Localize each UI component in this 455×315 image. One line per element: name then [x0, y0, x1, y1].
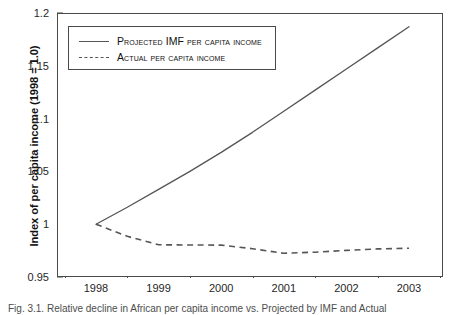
- y-tick-label: 1.1: [9, 113, 49, 125]
- x-tick-label: 2000: [186, 282, 256, 294]
- x-tick-label: 1999: [124, 282, 194, 294]
- y-tick-label: 1.05: [9, 165, 49, 177]
- y-tick-label: 0.95: [9, 271, 49, 283]
- legend-label-projected: Projected IMF per capita income: [117, 35, 262, 47]
- x-tick-label: 2001: [249, 282, 319, 294]
- legend-line-solid-icon: [79, 36, 109, 46]
- y-tick-label: 1: [9, 218, 49, 230]
- figure-caption: Fig. 3.1. Relative decline in African pe…: [8, 303, 448, 314]
- x-tick-label: 1998: [61, 282, 131, 294]
- x-tick-label: 2003: [374, 282, 444, 294]
- legend-entry-projected: Projected IMF per capita income: [79, 34, 262, 48]
- legend-label-actual: Actual per capita income: [117, 51, 225, 63]
- figure-chart: Index of per capita income (1998 = 1.0) …: [0, 0, 455, 315]
- legend-entry-actual: Actual per capita income: [79, 50, 225, 64]
- legend: Projected IMF per capita income Actual p…: [68, 26, 276, 70]
- x-tick-label: 2002: [311, 282, 381, 294]
- y-tick-label: 1.2: [9, 7, 49, 19]
- y-tick-label: 1.15: [9, 60, 49, 72]
- legend-line-dashed-icon: [79, 52, 109, 62]
